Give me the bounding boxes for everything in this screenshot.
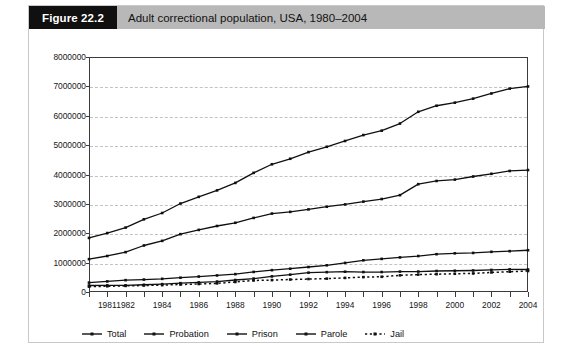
data-point-marker (234, 182, 237, 185)
data-point-marker (472, 252, 475, 255)
data-point-marker (380, 129, 383, 132)
data-point-marker (454, 269, 457, 272)
x-tick-mark (400, 292, 401, 297)
data-point-marker (271, 269, 274, 272)
series-line-total (89, 86, 528, 237)
data-point-marker (362, 200, 365, 203)
figure-number-badge: Figure 22.2 (29, 6, 117, 29)
x-tick-label: 1984 (153, 300, 172, 310)
legend-symbol-prison (226, 329, 248, 339)
data-point-marker (399, 274, 402, 277)
x-tick-label: 1994 (336, 300, 355, 310)
data-point-marker (454, 252, 457, 255)
data-point-marker (472, 269, 475, 272)
legend-label: Total (107, 329, 126, 339)
data-point-marker (399, 256, 402, 259)
data-point-marker (380, 275, 383, 278)
data-point-marker (197, 275, 200, 278)
x-tick-label: 1981 (98, 300, 117, 310)
data-point-marker (454, 101, 457, 104)
data-point-marker (435, 270, 438, 273)
figure-caption: Adult correctional population, USA, 1980… (117, 6, 545, 29)
data-point-marker (307, 208, 310, 211)
data-point-marker (216, 274, 219, 277)
figure-card: Figure 22.2 Adult correctional populatio… (28, 5, 544, 343)
x-tick-mark (89, 292, 90, 297)
data-point-marker (234, 221, 237, 224)
data-point-marker (143, 278, 146, 281)
data-point-marker (289, 157, 292, 160)
x-tick-mark (180, 292, 181, 297)
legend-item-parole[interactable]: Parole (295, 329, 348, 339)
data-point-marker (435, 253, 438, 256)
x-tick-label: 2002 (482, 300, 501, 310)
data-point-marker (362, 259, 365, 262)
data-point-marker (88, 237, 91, 240)
data-point-marker (490, 271, 493, 274)
data-point-marker (124, 226, 127, 229)
data-point-marker (490, 92, 493, 95)
data-point-marker (289, 278, 292, 281)
data-point-marker (143, 244, 146, 247)
x-tick-label: 1992 (299, 300, 318, 310)
data-point-marker (161, 240, 164, 243)
data-point-marker (362, 271, 365, 274)
data-point-marker (106, 255, 109, 258)
x-tick-mark (254, 292, 255, 297)
data-point-marker (289, 267, 292, 270)
data-point-marker (472, 97, 475, 100)
legend-item-jail[interactable]: Jail (364, 329, 404, 339)
legend-label: Jail (390, 329, 404, 339)
data-point-marker (508, 270, 511, 273)
data-point-marker (508, 268, 511, 271)
x-tick-mark (382, 292, 383, 297)
data-point-marker (325, 264, 328, 267)
x-tick-mark (272, 292, 273, 297)
data-point-marker (417, 273, 420, 276)
data-point-marker (124, 251, 127, 254)
x-tick-mark (144, 292, 145, 297)
data-point-marker (472, 175, 475, 178)
x-tick-mark (528, 292, 529, 297)
legend-item-probation[interactable]: Probation (143, 329, 208, 339)
x-tick-mark (309, 292, 310, 297)
legend-item-total[interactable]: Total (81, 329, 126, 339)
x-tick-mark (491, 292, 492, 297)
data-point-marker (399, 122, 402, 125)
data-point-marker (124, 279, 127, 282)
x-tick-mark (290, 292, 291, 297)
x-tick-mark (437, 292, 438, 297)
data-point-marker (325, 145, 328, 148)
x-axis-tick-labels: 1981198219841986198819901992199419961998… (89, 300, 528, 314)
data-point-marker (527, 249, 530, 252)
x-tick-label: 2000 (446, 300, 465, 310)
data-point-marker (216, 189, 219, 192)
legend-item-prison[interactable]: Prison (226, 329, 278, 339)
data-point-marker (289, 273, 292, 276)
x-tick-mark (162, 292, 163, 297)
data-point-marker (454, 272, 457, 275)
data-point-marker (508, 250, 511, 253)
chart-legend: TotalProbationPrisonParoleJail (81, 326, 411, 342)
data-point-marker (362, 276, 365, 279)
x-tick-mark (217, 292, 218, 297)
data-point-marker (307, 278, 310, 281)
data-point-marker (124, 285, 127, 288)
data-point-marker (271, 275, 274, 278)
data-point-marker (143, 218, 146, 221)
data-point-marker (179, 283, 182, 286)
data-point-marker (399, 194, 402, 197)
data-point-marker (216, 225, 219, 228)
data-point-marker (325, 271, 328, 274)
data-point-marker (435, 273, 438, 276)
x-tick-mark (345, 292, 346, 297)
data-point-marker (143, 284, 146, 287)
data-point-marker (344, 140, 347, 143)
data-point-marker (380, 258, 383, 261)
x-tick-label: 1996 (372, 300, 391, 310)
data-point-marker (179, 202, 182, 205)
chart-area: 8000000700000060000005000000400000030000… (29, 29, 545, 344)
x-tick-label: 1988 (226, 300, 245, 310)
data-point-marker (179, 276, 182, 279)
legend-symbol-jail (364, 329, 386, 339)
